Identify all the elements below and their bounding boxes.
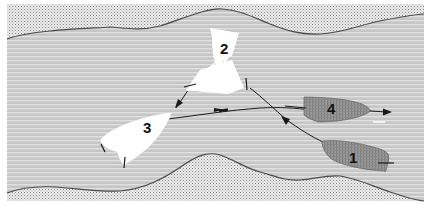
boat-1-label: 1 xyxy=(349,149,357,166)
boat-4-label: 4 xyxy=(327,100,336,117)
arrow-3-to-4-shaft xyxy=(219,110,228,111)
boat-3-label: 3 xyxy=(143,119,151,136)
boat-2-label: 2 xyxy=(220,40,228,57)
boat-maneuver-diagram: 2 3 4 1 xyxy=(0,0,431,205)
